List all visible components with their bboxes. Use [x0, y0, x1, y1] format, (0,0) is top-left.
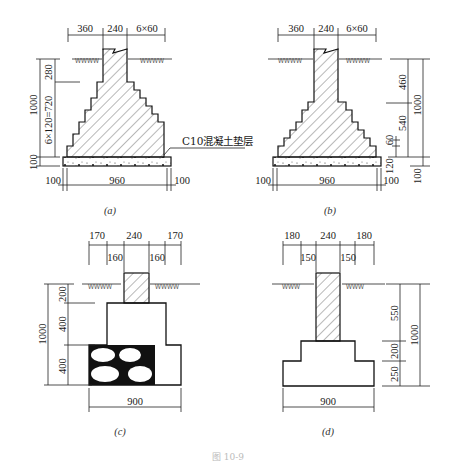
dim-b-right-1: 460: [397, 74, 408, 90]
concrete-cushion-a: [63, 157, 171, 166]
dim-d-bottom-1: 900: [320, 396, 336, 407]
dim-a-bottom-2: 960: [109, 175, 125, 186]
dim-c-top-1: 170: [89, 230, 105, 241]
dim-a-left-1: 280: [43, 64, 54, 80]
dim-a-bottom-3: 100: [174, 175, 190, 186]
panel-a: 360 240 6×60 ＷＷＷＷ ＷＷＷＷ 280 6×120=720 100…: [28, 23, 253, 217]
foundation-diagram: 360 240 6×60 ＷＷＷＷ ＷＷＷＷ 280 6×120=720 100…: [0, 0, 456, 463]
dim-d-right-1: 550: [389, 305, 400, 321]
svg-text:ＷＷＷＷ: ＷＷＷＷ: [155, 284, 179, 290]
svg-text:ＷＷＷ: ＷＷＷ: [282, 284, 300, 290]
dim-d-right-3: 250: [389, 366, 400, 382]
panel-d: 180 240 180 150 150 ＷＷＷ ＷＷＷ 550 200 250 …: [272, 230, 430, 438]
svg-text:ＷＷＷＷ: ＷＷＷＷ: [75, 58, 99, 64]
dim-a-top-2: 240: [107, 23, 123, 34]
dim-c-inner-2: 160: [149, 252, 165, 263]
dim-d-inner-2: 150: [340, 252, 356, 263]
dim-b-right-4: 120: [384, 158, 395, 174]
concrete-footing-d: [283, 341, 374, 386]
dim-b-top-1: 360: [288, 23, 304, 34]
dim-d-right-4: 1000: [409, 325, 420, 346]
brick-wall-d: [316, 273, 340, 341]
dim-b-bottom-2: 960: [319, 175, 335, 186]
dim-a-left-3: 1000: [28, 95, 39, 116]
svg-text:ＷＷＷＷ: ＷＷＷＷ: [88, 284, 112, 290]
dim-a-top-3: 6×60: [136, 23, 158, 34]
dim-a-bottom-1: 100: [45, 175, 61, 186]
dim-d-inner-1: 150: [300, 252, 316, 263]
caption-a: (a): [104, 205, 117, 217]
dim-c-left-1: 200: [57, 286, 68, 302]
dim-c-bottom-1: 900: [127, 396, 143, 407]
caption-c: (c): [114, 426, 126, 438]
dim-b-right-6: 100: [412, 168, 423, 184]
dim-d-top-1: 180: [284, 230, 300, 241]
caption-d: (d): [322, 426, 335, 438]
svg-text:ＷＷＷＷ: ＷＷＷＷ: [140, 58, 164, 64]
dim-b-bottom-1: 100: [255, 175, 271, 186]
panel-b: 360 240 6×60 ＷＷＷＷ ＷＷＷＷ 460 540 60 120 10…: [255, 23, 430, 217]
dim-b-right-3: 60: [384, 135, 395, 146]
dim-d-right-2: 200: [389, 343, 400, 359]
dim-d-top-2: 240: [320, 230, 336, 241]
svg-text:ＷＷＷＷ: ＷＷＷＷ: [278, 58, 302, 64]
dim-a-left-4: 100: [28, 154, 39, 170]
dim-b-top-3: 6×60: [346, 23, 368, 34]
figure-caption: 图 10-9: [212, 452, 244, 462]
concrete-cushion-b: [273, 157, 381, 166]
svg-text:ＷＷＷＷ: ＷＷＷＷ: [346, 58, 370, 64]
dim-c-inner-1: 160: [107, 252, 123, 263]
svg-text:ＷＷＷ: ＷＷＷ: [346, 284, 364, 290]
dim-b-right-2: 540: [397, 115, 408, 131]
dim-d-top-3: 180: [356, 230, 372, 241]
dim-c-top-2: 240: [126, 230, 142, 241]
brick-footing-a: [67, 49, 164, 157]
dim-a-left-2: 6×120=720: [43, 96, 54, 145]
dim-c-left-2: 400: [57, 316, 68, 332]
caption-b: (b): [324, 205, 337, 217]
panel-c: 170 240 170 160 160 ＷＷＷＷ ＷＷＷＷ 200 400 10…: [37, 230, 200, 438]
dim-c-left-3: 1000: [37, 324, 48, 345]
dim-b-right-5: 1000: [412, 95, 423, 116]
dim-c-top-3: 170: [167, 230, 183, 241]
callout-c10-cushion: C10混凝土垫层: [182, 135, 253, 147]
brick-wall-c: [124, 273, 149, 303]
dim-c-left-4: 400: [57, 358, 68, 374]
dim-a-top-1: 360: [77, 23, 93, 34]
dim-b-bottom-3: 100: [383, 175, 399, 186]
brick-footing-b: [278, 49, 376, 157]
dim-b-top-2: 240: [318, 23, 334, 34]
